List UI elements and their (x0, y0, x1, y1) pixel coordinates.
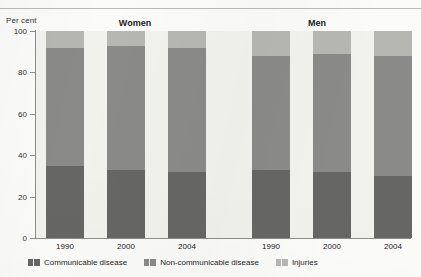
bar-segment-communicable (168, 172, 206, 238)
bar-segment-noncommunicable (252, 56, 290, 170)
legend-item-noncommunicable: Non-communicable disease (144, 258, 259, 267)
y-axis-tick (30, 31, 36, 32)
bar-segment-injuries (46, 31, 84, 48)
bar-segment-injuries (252, 31, 290, 56)
y-axis-line (35, 30, 36, 239)
bar-women-2004 (168, 31, 206, 238)
bar-segment-noncommunicable (46, 48, 84, 166)
bar-segment-communicable (107, 170, 145, 238)
y-axis-tick (30, 238, 36, 239)
group-title-women: Women (70, 18, 200, 28)
x-axis-tick-label-men-1990: 1990 (241, 242, 301, 251)
legend-label-communicable: Communicable disease (44, 258, 127, 267)
legend-item-injuries: Injuries (276, 258, 318, 267)
plot-background (35, 31, 411, 238)
x-axis-tick-label-men-2000: 2000 (302, 242, 362, 251)
legend-swatch-injuries-icon (276, 259, 288, 266)
legend-label-noncommunicable: Non-communicable disease (160, 258, 259, 267)
y-axis-tick (30, 72, 36, 73)
bar-men-2000 (313, 31, 351, 238)
y-axis-tick-label-0: 0 (0, 234, 27, 243)
y-axis-tick-label-20: 20 (0, 193, 27, 202)
bar-segment-noncommunicable (313, 54, 351, 172)
group-title-men: Men (262, 18, 372, 28)
y-axis-tick-label-100: 100 (0, 27, 27, 36)
y-axis-unit-label: Per cent (6, 16, 37, 25)
header-divider-rule (0, 8, 421, 9)
x-axis-tick-label-men-2004: 2004 (363, 242, 421, 251)
y-axis-tick (30, 197, 36, 198)
bar-segment-injuries (168, 31, 206, 48)
x-axis-tick-label-women-1990: 1990 (35, 242, 95, 251)
bar-women-1990 (46, 31, 84, 238)
legend-item-communicable: Communicable disease (28, 258, 127, 267)
x-axis-tick-label-women-2000: 2000 (96, 242, 156, 251)
bar-segment-communicable (46, 166, 84, 238)
bar-segment-communicable (374, 176, 412, 238)
legend-swatch-communicable-icon (28, 259, 40, 266)
bar-segment-communicable (313, 172, 351, 238)
y-axis-tick-label-80: 80 (0, 68, 27, 77)
bar-segment-injuries (107, 31, 145, 45)
y-axis-tick-label-60: 60 (0, 110, 27, 119)
chart-plot-area (35, 31, 411, 238)
bar-segment-noncommunicable (107, 46, 145, 170)
bar-segment-injuries (374, 31, 412, 56)
y-axis-tick-label-40: 40 (0, 151, 27, 160)
bar-segment-noncommunicable (374, 56, 412, 176)
legend-label-injuries: Injuries (292, 258, 318, 267)
legend-swatch-noncommunicable-icon (144, 259, 156, 266)
bar-women-2000 (107, 31, 145, 238)
bar-segment-injuries (313, 31, 351, 54)
y-axis-tick (30, 155, 36, 156)
y-axis-tick (30, 114, 36, 115)
x-axis-tick-label-women-2004: 2004 (157, 242, 217, 251)
bar-men-2004 (374, 31, 412, 238)
chart-legend: Communicable disease Non-communicable di… (28, 258, 335, 267)
bar-segment-noncommunicable (168, 48, 206, 172)
bar-men-1990 (252, 31, 290, 238)
x-axis-line (30, 238, 411, 239)
bar-segment-communicable (252, 170, 290, 238)
